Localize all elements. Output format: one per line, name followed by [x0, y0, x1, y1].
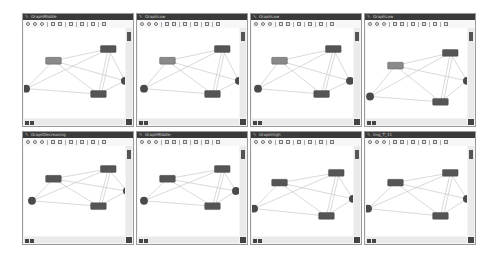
check-icon[interactable] — [205, 140, 209, 144]
zoom-in-icon[interactable] — [140, 22, 144, 26]
graph-panel[interactable]: ✎GraphMiddle — [136, 131, 248, 245]
graph-canvas[interactable] — [366, 28, 467, 118]
print-icon[interactable] — [194, 140, 198, 144]
zoom-in-icon[interactable] — [140, 140, 144, 144]
zoom-out-icon[interactable] — [382, 22, 386, 26]
grid-icon[interactable] — [58, 140, 62, 144]
info-icon[interactable] — [330, 22, 334, 26]
scrollbar-thumb[interactable] — [355, 150, 359, 159]
graph-node[interactable] — [91, 91, 107, 98]
check-icon[interactable] — [205, 22, 209, 26]
graph-node[interactable] — [366, 93, 374, 101]
copy-icon[interactable] — [297, 140, 301, 144]
copy-icon[interactable] — [297, 22, 301, 26]
graph-panel[interactable]: ✎GraphMiddle — [22, 13, 134, 127]
layout-icon[interactable] — [393, 22, 397, 26]
graph-panel[interactable]: ✎GraphLow — [250, 13, 362, 127]
zoom-out-icon[interactable] — [382, 140, 386, 144]
zoom-out-icon[interactable] — [154, 140, 158, 144]
graph-node[interactable] — [433, 213, 449, 220]
graph-canvas[interactable] — [24, 28, 125, 118]
graph-canvas[interactable] — [138, 28, 239, 118]
graph-node[interactable] — [46, 175, 62, 182]
graph-node[interactable] — [160, 57, 176, 64]
vertical-scrollbar[interactable] — [126, 146, 132, 236]
graph-node[interactable] — [123, 187, 125, 195]
graph-panel[interactable]: ✎GraphHigh — [250, 131, 362, 245]
info-icon[interactable] — [102, 22, 106, 26]
print-icon[interactable] — [80, 22, 84, 26]
horizontal-scrollbar[interactable] — [24, 119, 125, 125]
graph-node[interactable] — [100, 46, 116, 53]
graph-node[interactable] — [232, 187, 239, 195]
graph-canvas[interactable] — [252, 28, 353, 118]
zoom-out-icon[interactable] — [40, 140, 44, 144]
fit-icon[interactable] — [375, 140, 379, 144]
resize-corner[interactable] — [126, 119, 132, 125]
layout-icon[interactable] — [165, 22, 169, 26]
scroll-arrow-button[interactable] — [372, 121, 376, 125]
fit-icon[interactable] — [147, 22, 151, 26]
graph-node[interactable] — [46, 57, 62, 64]
scrollbar-thumb[interactable] — [469, 32, 473, 41]
copy-icon[interactable] — [411, 22, 415, 26]
fit-icon[interactable] — [147, 140, 151, 144]
grid-icon[interactable] — [172, 140, 176, 144]
graph-node[interactable] — [205, 91, 221, 98]
zoom-out-icon[interactable] — [154, 22, 158, 26]
resize-corner[interactable] — [354, 237, 360, 243]
graph-node[interactable] — [205, 203, 221, 210]
zoom-in-icon[interactable] — [368, 22, 372, 26]
vertical-scrollbar[interactable] — [126, 28, 132, 118]
graph-node[interactable] — [235, 77, 239, 85]
layout-icon[interactable] — [51, 22, 55, 26]
graph-node[interactable] — [319, 213, 335, 220]
layout-icon[interactable] — [165, 140, 169, 144]
graph-node[interactable] — [349, 195, 353, 203]
grid-icon[interactable] — [286, 140, 290, 144]
fit-icon[interactable] — [33, 22, 37, 26]
graph-node[interactable] — [442, 169, 458, 176]
graph-canvas[interactable] — [24, 146, 125, 236]
zoom-out-icon[interactable] — [268, 140, 272, 144]
copy-icon[interactable] — [69, 140, 73, 144]
print-icon[interactable] — [80, 140, 84, 144]
layout-icon[interactable] — [393, 140, 397, 144]
vertical-scrollbar[interactable] — [468, 28, 474, 118]
scrollbar-thumb[interactable] — [241, 150, 245, 159]
scroll-arrow-button[interactable] — [253, 121, 257, 125]
info-icon[interactable] — [444, 22, 448, 26]
graph-node[interactable] — [314, 91, 330, 98]
resize-corner[interactable] — [354, 119, 360, 125]
horizontal-scrollbar[interactable] — [138, 237, 239, 243]
graph-node[interactable] — [121, 77, 125, 85]
zoom-in-icon[interactable] — [26, 140, 30, 144]
graph-panel[interactable]: ✎Img_T_11 — [364, 131, 476, 245]
vertical-scrollbar[interactable] — [354, 28, 360, 118]
info-icon[interactable] — [102, 140, 106, 144]
scroll-arrow-button[interactable] — [372, 239, 376, 243]
graph-node[interactable] — [160, 175, 176, 182]
horizontal-scrollbar[interactable] — [138, 119, 239, 125]
fit-icon[interactable] — [33, 140, 37, 144]
layout-icon[interactable] — [51, 140, 55, 144]
copy-icon[interactable] — [411, 140, 415, 144]
check-icon[interactable] — [433, 140, 437, 144]
graph-node[interactable] — [28, 197, 36, 205]
zoom-in-icon[interactable] — [368, 140, 372, 144]
print-icon[interactable] — [194, 22, 198, 26]
info-icon[interactable] — [216, 140, 220, 144]
graph-node[interactable] — [346, 77, 353, 85]
graph-node[interactable] — [214, 166, 230, 173]
graph-node[interactable] — [388, 62, 404, 69]
graph-node[interactable] — [388, 179, 404, 186]
graph-panel[interactable]: ✎GraphLow — [364, 13, 476, 127]
graph-canvas[interactable] — [138, 146, 239, 236]
vertical-scrollbar[interactable] — [468, 146, 474, 236]
graph-node[interactable] — [433, 98, 449, 105]
scrollbar-thumb[interactable] — [241, 32, 245, 41]
resize-corner[interactable] — [126, 237, 132, 243]
graph-node[interactable] — [272, 57, 288, 64]
grid-icon[interactable] — [286, 22, 290, 26]
scroll-arrow-button[interactable] — [25, 239, 29, 243]
